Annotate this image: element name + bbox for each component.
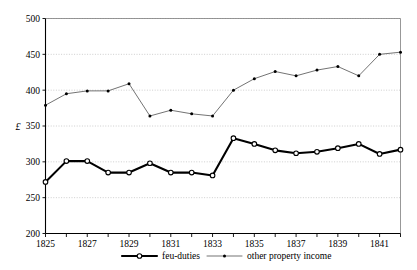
- x-tick-label: 1825: [36, 239, 55, 249]
- x-tick-label: 1831: [161, 239, 180, 249]
- data-point-other-property-income: [128, 82, 131, 85]
- data-point-other-property-income: [357, 74, 360, 77]
- y-tick-label: 300: [26, 157, 41, 167]
- data-point-other-property-income: [274, 70, 277, 73]
- series-other-property-income-line: [46, 52, 401, 116]
- x-tick-label: 1833: [203, 239, 222, 249]
- data-point-feu-duties: [85, 159, 90, 164]
- y-tick-label: 450: [26, 50, 41, 60]
- data-point-feu-duties: [336, 146, 341, 151]
- data-point-other-property-income: [253, 77, 256, 80]
- data-point-other-property-income: [232, 89, 235, 92]
- chart-container: 200250300350400450500 £ 1825182718291831…: [0, 0, 417, 270]
- data-point-feu-duties: [377, 152, 382, 157]
- x-tick-label: 1839: [328, 239, 347, 249]
- legend-marker-other-property-income: [223, 255, 226, 258]
- data-point-other-property-income: [65, 92, 68, 95]
- data-point-feu-duties: [43, 180, 48, 185]
- data-point-other-property-income: [86, 89, 89, 92]
- data-point-feu-duties: [315, 150, 320, 155]
- data-point-feu-duties: [106, 170, 111, 175]
- data-point-other-property-income: [107, 89, 110, 92]
- chart-legend: feu-dutiesother property income: [122, 251, 331, 261]
- y-tick-label: 200: [26, 229, 41, 239]
- data-point-feu-duties: [148, 161, 153, 166]
- data-point-feu-duties: [127, 170, 132, 175]
- data-point-feu-duties: [64, 159, 69, 164]
- series-other-property-income: [44, 51, 402, 118]
- y-tick-label: 400: [26, 86, 41, 96]
- series-feu-duties: [43, 136, 403, 184]
- y-tick-label: 500: [26, 14, 41, 24]
- data-point-feu-duties: [273, 148, 278, 153]
- series-feu-duties-line: [46, 138, 401, 182]
- data-point-other-property-income: [315, 69, 318, 72]
- data-point-feu-duties: [210, 173, 215, 178]
- data-point-other-property-income: [378, 53, 381, 56]
- data-point-feu-duties: [231, 136, 236, 141]
- line-chart: 200250300350400450500 £ 1825182718291831…: [0, 0, 417, 270]
- y-axis-unit-label: £: [16, 121, 21, 132]
- x-tick-label: 1827: [78, 239, 97, 249]
- x-axis-tick-labels: 182518271829183118331835183718391841: [36, 239, 389, 249]
- legend-label-feu-duties: feu-duties: [162, 251, 200, 261]
- data-point-other-property-income: [336, 65, 339, 68]
- x-tick-label: 1835: [245, 239, 264, 249]
- data-point-feu-duties: [189, 170, 194, 175]
- x-tick-label: 1837: [287, 239, 306, 249]
- y-tick-label: 250: [26, 193, 41, 203]
- data-point-feu-duties: [294, 151, 299, 156]
- y-tick-label: 350: [26, 121, 41, 131]
- data-point-other-property-income: [148, 114, 151, 117]
- x-tick-label: 1829: [120, 239, 139, 249]
- data-point-feu-duties: [168, 170, 173, 175]
- data-point-feu-duties: [398, 147, 403, 152]
- x-tick-label: 1841: [370, 239, 389, 249]
- data-point-feu-duties: [356, 142, 361, 147]
- data-point-other-property-income: [44, 104, 47, 107]
- y-axis-tick-labels: 200250300350400450500: [26, 14, 41, 239]
- data-point-other-property-income: [399, 51, 402, 54]
- data-point-other-property-income: [295, 74, 298, 77]
- legend-marker-feu-duties: [137, 254, 142, 259]
- data-point-other-property-income: [190, 112, 193, 115]
- data-point-other-property-income: [169, 109, 172, 112]
- data-point-other-property-income: [211, 114, 214, 117]
- gridlines: [46, 19, 401, 198]
- legend-label-other-property-income: other property income: [247, 251, 331, 261]
- data-point-feu-duties: [252, 142, 257, 147]
